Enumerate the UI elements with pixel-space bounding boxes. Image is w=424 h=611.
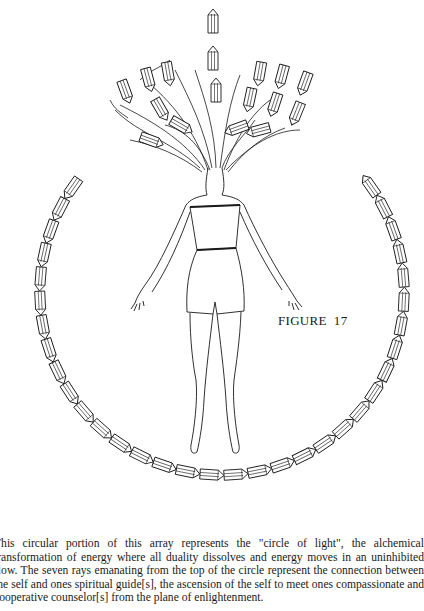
woman-figure bbox=[131, 168, 302, 453]
figure-label: FIGURE 17 bbox=[278, 313, 347, 329]
crystal-ray bbox=[208, 9, 221, 102]
figure-17-illustration bbox=[0, 0, 417, 490]
caption: This circular portion of this array repr… bbox=[0, 537, 424, 605]
crystal-circle-drawing bbox=[0, 0, 417, 490]
crystal-ring bbox=[34, 173, 409, 481]
hair-crystals bbox=[117, 61, 313, 149]
caption-text: This circular portion of this array repr… bbox=[0, 537, 424, 605]
